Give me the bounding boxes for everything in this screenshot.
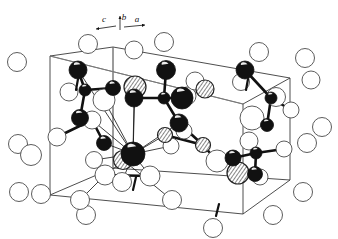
atom-o6 xyxy=(125,41,143,59)
atom-d7 xyxy=(158,92,170,104)
atom-sphere-open xyxy=(71,191,90,210)
atom-sphere-open xyxy=(10,183,29,202)
atom-d15 xyxy=(248,167,263,182)
atom-o9 xyxy=(296,49,315,68)
atom-o11 xyxy=(298,134,317,153)
axis-label-a: a xyxy=(135,14,140,24)
atom-d1 xyxy=(69,61,87,79)
atom-sphere-open xyxy=(298,134,317,153)
atom-sphere-open xyxy=(48,128,66,146)
atom-d3 xyxy=(106,81,121,96)
atom-d10 xyxy=(121,142,145,166)
atom-sh5 xyxy=(196,138,211,153)
atom-sphere-open xyxy=(95,165,115,185)
atom-o13 xyxy=(313,118,332,137)
atom-o17 xyxy=(48,128,66,146)
atom-sh3 xyxy=(158,128,173,143)
atom-sphere-open xyxy=(8,53,27,72)
atom-o37 xyxy=(276,141,292,157)
atom-o26 xyxy=(71,191,90,210)
atom-o30 xyxy=(206,150,228,172)
atom-sphere-shaded xyxy=(196,80,214,98)
atom-sphere-open xyxy=(163,191,182,210)
atom-o10 xyxy=(302,71,320,89)
atom-o34 xyxy=(283,102,299,118)
atom-o15 xyxy=(204,219,223,238)
atom-o3 xyxy=(21,145,42,166)
atom-d6 xyxy=(157,61,176,80)
atom-sphere-open xyxy=(140,166,160,186)
atom-o27 xyxy=(163,191,182,210)
atom-sphere-open xyxy=(283,102,299,118)
atom-sphere-open xyxy=(204,219,223,238)
crystal-structure-figure: cba xyxy=(0,0,338,239)
atom-o4 xyxy=(10,183,29,202)
atom-d12 xyxy=(97,136,112,151)
atom-o12 xyxy=(294,183,313,202)
atom-sphere-open xyxy=(302,71,320,89)
atom-sphere-open xyxy=(32,185,51,204)
atom-o19 xyxy=(60,83,78,101)
atom-sphere-open xyxy=(313,118,332,137)
atom-d11 xyxy=(236,61,254,79)
atom-d14 xyxy=(250,147,262,159)
atom-o22 xyxy=(95,165,115,185)
atom-sphere-open xyxy=(155,33,174,52)
axis-label-c: c xyxy=(102,14,106,24)
crystal-structure-svg: cba xyxy=(0,0,338,239)
atom-o16 xyxy=(264,206,283,225)
atom-d16 xyxy=(265,92,277,104)
atom-sphere-open xyxy=(60,83,78,101)
atom-sphere-open xyxy=(276,141,292,157)
atom-sphere-open xyxy=(250,43,269,62)
atom-sphere-open xyxy=(79,35,98,54)
atom-sphere-shaded xyxy=(196,138,211,153)
atom-sphere-open xyxy=(113,173,132,192)
atom-o1 xyxy=(8,53,27,72)
atom-d4 xyxy=(72,110,89,127)
atom-o5 xyxy=(79,35,98,54)
atom-sphere-open xyxy=(125,41,143,59)
atom-sphere-shaded xyxy=(158,128,173,143)
atom-sphere-open xyxy=(21,145,42,166)
atom-sphere-open xyxy=(294,183,313,202)
atom-d13 xyxy=(225,150,241,166)
atom-d8 xyxy=(171,87,193,109)
atom-sphere-open xyxy=(296,49,315,68)
atom-d9 xyxy=(170,114,188,132)
atom-d2 xyxy=(79,84,91,96)
atom-o23 xyxy=(113,173,132,192)
atom-sh2 xyxy=(196,80,214,98)
atom-sphere-open xyxy=(264,206,283,225)
atom-o25 xyxy=(32,185,51,204)
axis-label-b: b xyxy=(122,12,127,22)
atom-o8 xyxy=(250,43,269,62)
atom-sphere-open xyxy=(206,150,228,172)
atom-o24 xyxy=(140,166,160,186)
atom-d17 xyxy=(261,119,274,132)
atom-o7 xyxy=(155,33,174,52)
atom-d5 xyxy=(125,89,143,107)
